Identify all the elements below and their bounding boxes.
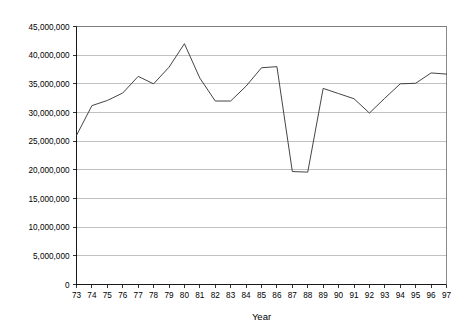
y-axis-tick-label: 20,000,000: [29, 166, 70, 175]
x-axis-tick-label: 88: [303, 291, 313, 300]
x-axis-tick-label: 92: [365, 291, 375, 300]
x-axis-title: Year: [252, 311, 271, 322]
x-axis-tick-label: 78: [149, 291, 159, 300]
y-axis-tick-label: 15,000,000: [29, 195, 70, 204]
x-axis-tick-label: 77: [134, 291, 144, 300]
x-axis-tick-label: 74: [87, 291, 97, 300]
x-axis-tick-label: 90: [334, 291, 344, 300]
y-axis-tick-label: 25,000,000: [29, 137, 70, 146]
x-axis-tick-label: 89: [319, 291, 329, 300]
line-chart: 05,000,00010,000,00015,000,00020,000,000…: [0, 0, 459, 332]
x-axis-tick-label: 75: [103, 291, 113, 300]
x-axis-tick-label: 84: [242, 291, 252, 300]
x-axis-tick-label: 86: [272, 291, 282, 300]
y-axis-tick-label: 45,000,000: [29, 23, 70, 32]
x-axis-tick-label: 93: [380, 291, 390, 300]
x-axis-tick-label: 95: [411, 291, 421, 300]
y-axis-tick-label: 30,000,000: [29, 109, 70, 118]
y-axis-tick-label: 40,000,000: [29, 51, 70, 60]
chart-container: 05,000,00010,000,00015,000,00020,000,000…: [0, 0, 459, 332]
y-axis-tick-label: 10,000,000: [29, 223, 70, 232]
x-axis-tick-label: 73: [72, 291, 82, 300]
x-axis-tick-label: 94: [396, 291, 406, 300]
x-axis-tick-label: 80: [180, 291, 190, 300]
x-axis-tick-label: 91: [349, 291, 359, 300]
x-axis-tick-label: 96: [427, 291, 437, 300]
y-axis-tick-label: 35,000,000: [29, 80, 70, 89]
x-axis-tick-label: 81: [195, 291, 205, 300]
x-axis-tick-label: 97: [442, 291, 452, 300]
x-axis-tick-label: 79: [164, 291, 174, 300]
x-axis-tick-label: 87: [288, 291, 298, 300]
x-axis-tick-label: 76: [118, 291, 128, 300]
y-axis-tick-label: 0: [65, 281, 70, 290]
x-axis-tick-label: 83: [226, 291, 236, 300]
x-axis-tick-label: 85: [257, 291, 267, 300]
x-axis-tick-label: 82: [211, 291, 221, 300]
y-axis-tick-label: 5,000,000: [33, 252, 70, 261]
